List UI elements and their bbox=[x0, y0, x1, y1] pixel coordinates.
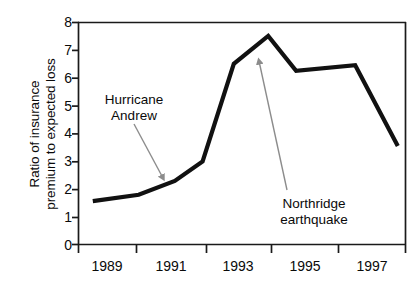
chart-figure: Ratio of insurance premium to expected l… bbox=[0, 0, 412, 292]
data-series-line bbox=[93, 36, 398, 201]
chart-canvas bbox=[0, 0, 412, 292]
annotation-arrow-hurricane bbox=[134, 124, 163, 178]
x-axis-ticks bbox=[79, 245, 406, 253]
annotation-arrow-northridge bbox=[259, 61, 287, 190]
